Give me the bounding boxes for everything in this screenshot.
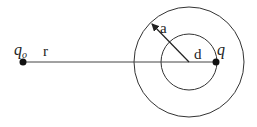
charge-diagram: qo r a d q — [0, 0, 257, 127]
distance-label: r — [43, 43, 48, 59]
charge-dot — [213, 59, 220, 66]
source-charge-label: qo — [14, 41, 27, 60]
radius-label: a — [160, 20, 167, 36]
offset-label: d — [194, 46, 202, 62]
charge-label: q — [217, 41, 225, 59]
radius-arrow — [152, 24, 189, 62]
